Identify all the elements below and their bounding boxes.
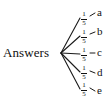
- branch-probability-e: 1 5: [78, 82, 90, 98]
- branch-probability-c-denominator: 5: [81, 56, 87, 63]
- branch-probability-b: 1 5: [78, 29, 90, 45]
- branch-probability-d-denominator: 5: [81, 74, 87, 81]
- connector-d: [90, 71, 95, 73]
- leaf-outcome-d: d: [97, 67, 103, 78]
- leaf-outcome-b: b: [97, 26, 103, 37]
- leaf-outcome-a: a: [97, 7, 102, 18]
- branch-probability-d: 1 5: [78, 65, 90, 81]
- connector-b: [90, 32, 95, 34]
- probability-tree-diagram: Answers 1 5 1 5 1 5 1 5 1 5: [0, 0, 107, 107]
- branch-probability-d-numerator: 1: [81, 65, 87, 72]
- root-node-label: Answers: [3, 45, 49, 60]
- connector-e: [90, 88, 95, 91]
- branch-probability-e-denominator: 5: [81, 91, 87, 98]
- branch-probability-a-numerator: 1: [81, 11, 87, 18]
- branch-probability-c-numerator: 1: [81, 47, 87, 54]
- branch-probability-b-numerator: 1: [81, 29, 87, 36]
- branch-probability-e-numerator: 1: [81, 82, 87, 89]
- leaf-outcome-e: e: [97, 85, 102, 96]
- branch-probability-a-denominator: 5: [81, 20, 87, 27]
- branch-probability-b-denominator: 5: [81, 38, 87, 45]
- branch-probability-a: 1 5: [78, 11, 90, 27]
- leaf-outcome-c: c: [97, 47, 102, 58]
- branch-probability-c: 1 5: [78, 47, 90, 63]
- connector-a: [90, 13, 95, 16]
